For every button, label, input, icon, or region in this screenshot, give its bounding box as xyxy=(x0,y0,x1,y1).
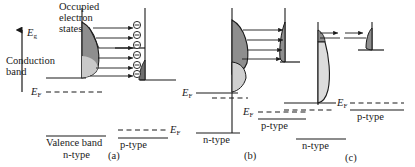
conduction-band-label: Conduction band xyxy=(6,55,55,77)
fermi-label-n-b: EF xyxy=(182,87,192,101)
fermi-label-p-a: EF xyxy=(170,124,180,138)
electron-icon xyxy=(133,31,140,38)
ntype-label-b: n-type xyxy=(203,134,230,146)
electron-icon xyxy=(133,51,140,58)
panel-c xyxy=(284,22,404,139)
caption-c: (c) xyxy=(345,152,357,164)
occupied-states-line1: Occupied xyxy=(59,1,99,12)
ntype-label-c: n-type xyxy=(302,140,329,152)
fermi-label-p-b: EF xyxy=(243,106,253,120)
electron-symbols-a xyxy=(133,21,140,77)
electron-icon xyxy=(133,21,140,28)
conduction-band-line2: band xyxy=(6,66,55,77)
band-gap-label: Eg xyxy=(27,27,37,41)
occupied-states-region-c xyxy=(318,42,329,103)
tunneling-arrows-c xyxy=(320,33,366,38)
valence-band-label: Valence band xyxy=(46,137,102,149)
caption-a: (a) xyxy=(108,150,120,162)
ntype-label-a: n-type xyxy=(63,149,90,161)
occupied-states-line3: states xyxy=(59,23,99,34)
electron-icon xyxy=(133,41,140,48)
ptype-label-b: p-type xyxy=(261,120,288,132)
panel-a-p-side-bands xyxy=(115,8,176,138)
occupied-states-label: Occupied electron states xyxy=(59,1,99,34)
occupied-states-line2: electron xyxy=(59,12,99,23)
fermi-label-n-a: EF xyxy=(31,86,41,100)
ptype-label-a: p-type xyxy=(120,139,147,151)
fermi-label-c: EF xyxy=(337,97,347,111)
ptype-label-c: p-type xyxy=(357,111,384,123)
electron-icon xyxy=(133,61,140,68)
conduction-band-line1: Conduction xyxy=(6,55,55,66)
caption-b: (b) xyxy=(244,150,256,162)
electron-icon xyxy=(133,70,140,77)
